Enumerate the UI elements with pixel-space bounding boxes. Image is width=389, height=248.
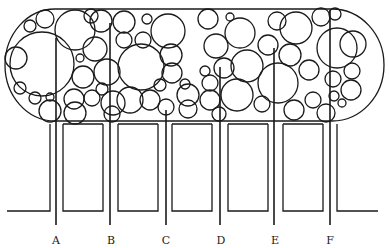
label-f: F (326, 234, 334, 247)
label-c: C (162, 234, 170, 247)
baseline-profile (7, 124, 378, 211)
circle-packing (5, 8, 366, 124)
label-a: A (51, 234, 61, 247)
label-e: E (271, 234, 279, 247)
diagram: A B C D E F (0, 0, 389, 248)
label-b: B (107, 234, 115, 247)
diagram-canvas: A B C D E F (0, 0, 389, 248)
label-d: D (217, 234, 226, 247)
